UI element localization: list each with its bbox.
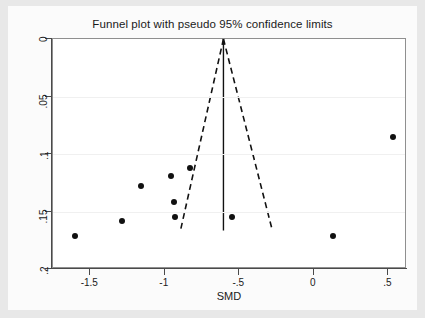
plot-area	[52, 38, 406, 268]
plot-graphics-overlay	[53, 39, 405, 267]
y-axis-tick-label: 0	[39, 37, 50, 43]
y-axis-tick-label: .2	[39, 267, 50, 275]
x-axis-tick-label: -.5	[218, 277, 258, 288]
ci-limit-line-left	[180, 39, 223, 231]
y-axis-tick-label: .05	[39, 94, 50, 108]
x-axis-tick	[164, 269, 165, 275]
data-point	[330, 233, 336, 239]
y-axis-tick-label: .15	[39, 209, 50, 223]
x-axis-tick-label: -1	[144, 277, 184, 288]
gridline-horizontal	[53, 154, 405, 155]
x-axis-tick	[238, 269, 239, 275]
x-axis-tick-label: .5	[367, 277, 407, 288]
y-axis-tick-label: .1	[39, 152, 50, 160]
funnel-plot-figure: Funnel plot with pseudo 95% confidence l…	[0, 0, 425, 318]
data-point	[168, 173, 174, 179]
x-axis-tick	[387, 269, 388, 275]
gridline-horizontal	[53, 97, 405, 98]
data-point	[72, 233, 78, 239]
chart-title: Funnel plot with pseudo 95% confidence l…	[0, 18, 425, 30]
ci-limit-line-right	[223, 39, 272, 231]
data-point	[119, 218, 125, 224]
x-axis-tick-label: -1.5	[69, 277, 109, 288]
x-axis-tick-label: 0	[293, 277, 333, 288]
x-axis-title: SMD	[52, 290, 406, 302]
data-point	[390, 134, 396, 140]
x-axis-tick	[313, 269, 314, 275]
x-axis-line	[52, 268, 407, 269]
data-point	[187, 165, 193, 171]
x-axis-tick	[89, 269, 90, 275]
gridline-horizontal	[53, 212, 405, 213]
